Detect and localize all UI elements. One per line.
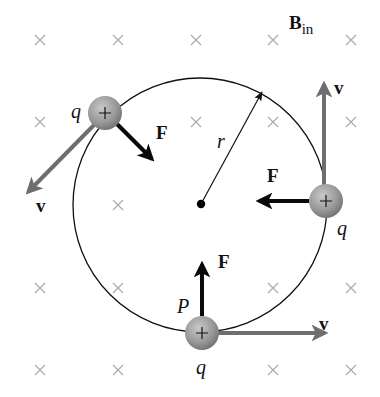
field-cross-icon [268, 365, 278, 375]
field-label: Bin [289, 13, 313, 32]
field-cross-icon [346, 35, 356, 45]
field-cross-icon [113, 365, 123, 375]
field-cross-icon [346, 365, 356, 375]
radius-label: r [217, 131, 225, 151]
field-cross-icon [268, 117, 278, 127]
force-label-bottom: F [218, 252, 230, 271]
field-cross-icon [35, 35, 45, 45]
field-cross-icon [191, 35, 201, 45]
charge-label-right: q [337, 218, 347, 238]
field-cross-icon [346, 117, 356, 127]
force-label-top-left: F [156, 123, 168, 142]
charge-bottom [185, 316, 219, 350]
force-label-right: F [267, 166, 279, 185]
point-label: P [177, 296, 189, 316]
velocity-label-right: v [334, 78, 344, 97]
field-cross-icon [113, 200, 123, 210]
radius-arrow [201, 92, 262, 204]
field-cross-icon [346, 283, 356, 293]
field-cross-icon [268, 283, 278, 293]
velocity-arrow-top-left [28, 124, 95, 192]
field-cross-icon [191, 117, 201, 127]
field-cross-icon [35, 117, 45, 127]
charge-label-bottom: q [196, 357, 206, 377]
field-cross-icon [35, 365, 45, 375]
charge-label-top-left: q [71, 101, 81, 121]
field-cross-icon [35, 283, 45, 293]
field-cross-icon [268, 35, 278, 45]
charge-right [309, 184, 343, 218]
velocity-label-top-left: v [36, 196, 46, 215]
field-cross-icon [113, 35, 123, 45]
charge-top-left [88, 96, 122, 130]
force-arrow-top-left [117, 124, 152, 159]
velocity-label-bottom: v [319, 314, 329, 333]
circular-motion-diagram [0, 0, 380, 397]
field-cross-icon [113, 283, 123, 293]
